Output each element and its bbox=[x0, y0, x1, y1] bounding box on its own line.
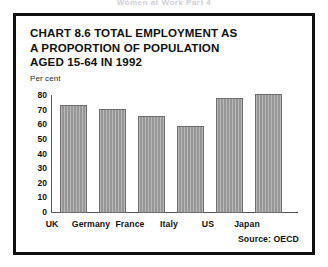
y-tick-label: 30 bbox=[30, 164, 47, 172]
bar-germany bbox=[99, 109, 126, 213]
chart-title: CHART 8.6 TOTAL EMPLOYMENT AS A PROPORTI… bbox=[30, 26, 298, 70]
plot-area: 80 70 60 50 40 30 20 10 0 UK Germany Fra… bbox=[30, 86, 302, 218]
y-tick-label: 0 bbox=[30, 208, 47, 216]
chart-title-line-1: CHART 8.6 TOTAL EMPLOYMENT AS bbox=[30, 26, 298, 41]
chart-title-line-3: AGED 15-64 IN 1992 bbox=[30, 55, 298, 70]
y-axis-label: Per cent bbox=[30, 74, 61, 83]
y-tick-label: 50 bbox=[30, 135, 47, 143]
cutoff-running-head: Women at Work Part 4 bbox=[0, 0, 328, 11]
chart-figure-frame: CHART 8.6 TOTAL EMPLOYMENT AS A PROPORTI… bbox=[13, 13, 315, 255]
bar-uk bbox=[60, 105, 87, 213]
y-tick-label: 20 bbox=[30, 179, 47, 187]
chart-figure-inner: CHART 8.6 TOTAL EMPLOYMENT AS A PROPORTI… bbox=[16, 16, 312, 252]
bar-france bbox=[138, 116, 165, 213]
bar-us bbox=[216, 98, 243, 213]
y-tick-label: 10 bbox=[30, 193, 47, 201]
y-tick-label: 70 bbox=[30, 106, 47, 114]
y-tick-label: 40 bbox=[30, 150, 47, 158]
bar-italy bbox=[177, 126, 204, 213]
y-tick-label: 60 bbox=[30, 120, 47, 128]
y-tick-label: 80 bbox=[30, 91, 47, 99]
chart-title-line-2: A PROPORTION OF POPULATION bbox=[30, 41, 298, 56]
source-label: Source: OECD bbox=[238, 234, 299, 244]
bar-japan bbox=[255, 94, 282, 213]
bar-series bbox=[52, 86, 298, 213]
x-tick-label-japan: Japan bbox=[224, 219, 270, 229]
